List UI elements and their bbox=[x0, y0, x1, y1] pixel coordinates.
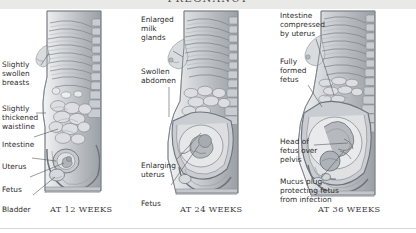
bottom-divider bbox=[0, 228, 416, 229]
caption-24-weeks: AT 24 WEEKS bbox=[139, 204, 277, 214]
label-enlarging-uterus: Enlarging uterus bbox=[141, 161, 176, 179]
stage-panel-36-weeks: Intestine compressed by uterus Fully for… bbox=[278, 9, 416, 224]
caption-12-weeks: AT 12 WEEKS bbox=[0, 204, 138, 214]
stage-panel-24-weeks: Enlarged milk glands Swollen abdomen Enl… bbox=[139, 9, 277, 224]
caption-36-weeks: AT 36 WEEKS bbox=[278, 204, 416, 214]
label-intestine-compressed-by-uterus: Intestine compressed by uterus bbox=[280, 11, 325, 38]
label-enlarged-milk-glands: Enlarged milk glands bbox=[141, 15, 174, 42]
label-slightly-swollen-breasts: Slightly swollen breasts bbox=[2, 60, 30, 87]
label-fully-formed-fetus: Fully formed fetus bbox=[280, 57, 306, 84]
label-fetus: Fetus bbox=[2, 185, 22, 194]
header-bar: PREGNANCY bbox=[0, 0, 416, 9]
stage-panel-12-weeks: Slightly swollen breasts Slightly thicke… bbox=[0, 9, 138, 224]
label-slightly-thickened-waistline: Slightly thickened waistline bbox=[2, 104, 38, 131]
label-swollen-abdomen: Swollen abdomen bbox=[141, 67, 176, 85]
label-mucus-plug-protecting-fetus: Mucus plug protecting fetus from infecti… bbox=[280, 177, 339, 204]
pregnancy-stages-figure: PREGNANCY bbox=[0, 0, 416, 233]
label-head-of-fetus-over-pelvis: Head of fetus over pelvis bbox=[280, 137, 317, 164]
label-intestine: Intestine bbox=[2, 140, 34, 149]
label-uterus: Uterus bbox=[2, 162, 26, 171]
page-title: PREGNANCY bbox=[0, 0, 416, 4]
